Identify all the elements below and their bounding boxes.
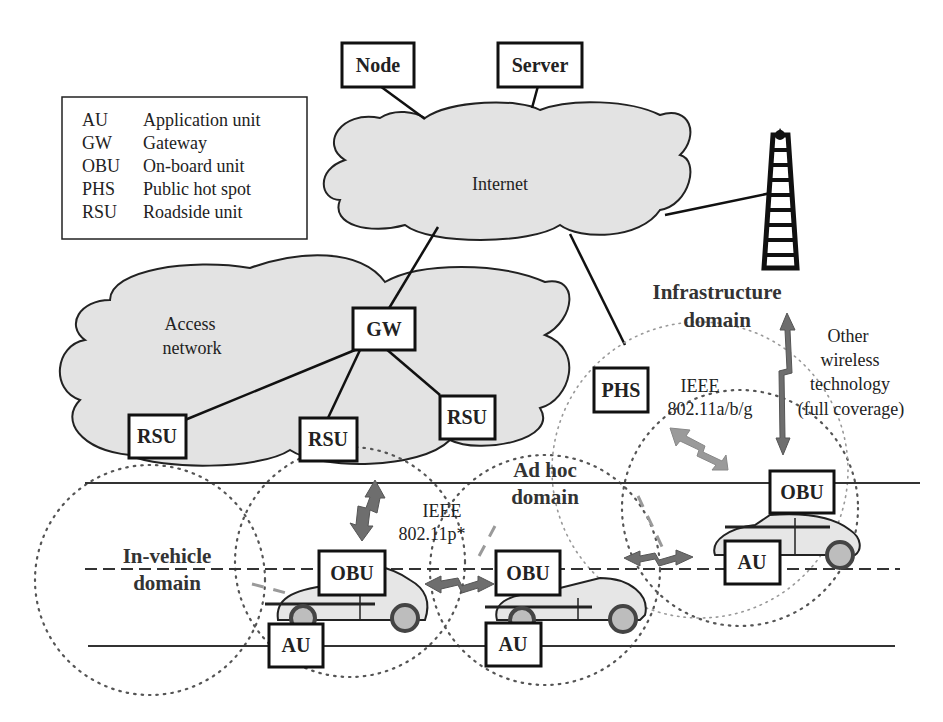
adhoc-domain-label-1: Ad hoc bbox=[513, 458, 577, 482]
obu-right-label: OBU bbox=[780, 481, 823, 503]
other-tech-label-2: wireless bbox=[821, 350, 880, 370]
wifi-tech-label-2: 802.11a/b/g bbox=[668, 399, 753, 419]
server-label: Server bbox=[512, 54, 569, 76]
legend-desc: Public hot spot bbox=[143, 179, 251, 199]
legend-desc: On-board unit bbox=[143, 156, 244, 176]
au-right-label: AU bbox=[738, 551, 767, 573]
rsu-obu-link-icon bbox=[350, 480, 385, 541]
obu-left-label: OBU bbox=[330, 562, 373, 584]
adhoc-domain-label-2: domain bbox=[511, 485, 579, 509]
link-internet-phs bbox=[570, 234, 625, 345]
dsrc-link-dash bbox=[477, 526, 495, 560]
vanet-architecture-diagram: AU Application unit GW Gateway OBU On-bo… bbox=[0, 0, 943, 722]
legend-desc: Gateway bbox=[143, 133, 207, 153]
cell-tower-icon bbox=[764, 128, 797, 268]
legend-abbr: AU bbox=[82, 110, 108, 130]
dsrc-tech-label-1: IEEE bbox=[423, 501, 462, 521]
legend-abbr: PHS bbox=[82, 179, 115, 199]
legend-abbr: GW bbox=[82, 133, 112, 153]
dsrc-tech-label-2: 802.11p* bbox=[399, 524, 466, 544]
infrastructure-domain-label-2: domain bbox=[683, 308, 751, 332]
au-middle-label: AU bbox=[499, 633, 528, 655]
legend-desc: Roadside unit bbox=[143, 202, 243, 222]
access-network-label-2: network bbox=[163, 338, 222, 358]
v2v-link-left-icon bbox=[425, 576, 494, 593]
other-tech-label-1: Other bbox=[828, 326, 869, 346]
internet-cloud bbox=[324, 102, 691, 240]
invehicle-domain-label-1: In-vehicle bbox=[123, 544, 212, 568]
au-left-label: AU bbox=[282, 634, 311, 656]
other-tech-label-3: technology bbox=[810, 374, 890, 394]
access-network-label-1: Access bbox=[165, 314, 216, 334]
gw-label: GW bbox=[366, 318, 402, 340]
phs-label: PHS bbox=[602, 379, 641, 401]
legend-abbr: RSU bbox=[82, 202, 117, 222]
wifi-tech-label-1: IEEE bbox=[681, 376, 720, 396]
legend-abbr: OBU bbox=[82, 156, 120, 176]
infrastructure-domain-label-1: Infrastructure bbox=[652, 280, 781, 304]
rsu-right-label: RSU bbox=[447, 406, 487, 428]
phs-link-dash bbox=[638, 496, 665, 553]
node-label: Node bbox=[356, 54, 401, 76]
internet-label: Internet bbox=[472, 174, 528, 194]
link-server-internet bbox=[532, 86, 538, 108]
other-wireless-link-icon bbox=[776, 313, 795, 455]
obu-middle-label: OBU bbox=[506, 562, 549, 584]
other-tech-label-4: (full coverage) bbox=[798, 399, 904, 420]
invehicle-domain-label-2: domain bbox=[133, 571, 201, 595]
rsu-left-label: RSU bbox=[137, 425, 177, 447]
rsu-middle-label: RSU bbox=[308, 428, 348, 450]
legend-desc: Application unit bbox=[143, 110, 260, 130]
legend: AU Application unit GW Gateway OBU On-bo… bbox=[62, 97, 307, 239]
wifi-link-icon bbox=[670, 428, 728, 470]
